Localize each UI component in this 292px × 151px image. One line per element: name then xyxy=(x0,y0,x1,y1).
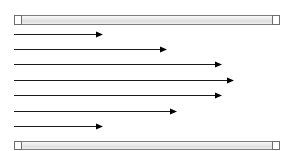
flow-arrow-7 xyxy=(14,124,103,130)
flow-arrow-3 xyxy=(14,62,222,68)
flow-arrow-4 xyxy=(14,78,234,84)
arrows-group xyxy=(14,32,234,130)
flow-arrow-3-head xyxy=(215,62,222,68)
bottom-plate-body xyxy=(15,142,280,150)
diagram-svg xyxy=(0,0,292,151)
plates-group xyxy=(15,16,280,150)
flow-arrow-6 xyxy=(14,109,177,115)
flow-arrow-5-head xyxy=(215,93,222,99)
flow-arrow-4-head xyxy=(227,78,234,84)
flow-arrow-2 xyxy=(14,47,167,53)
top-plate-left-cap xyxy=(15,16,22,25)
flow-arrow-2-head xyxy=(160,47,167,53)
bottom-plate xyxy=(15,142,280,150)
bottom-plate-left-cap xyxy=(15,142,22,150)
flow-arrow-1 xyxy=(14,32,103,38)
top-plate-body xyxy=(15,16,280,25)
top-plate-right-cap xyxy=(273,16,280,25)
flow-arrow-6-head xyxy=(170,109,177,115)
flow-arrow-5 xyxy=(14,93,222,99)
bottom-plate-right-cap xyxy=(273,142,280,150)
flow-arrow-1-head xyxy=(96,32,103,38)
flow-arrow-7-head xyxy=(96,124,103,130)
flow-profile-figure xyxy=(0,0,292,151)
top-plate xyxy=(15,16,280,25)
